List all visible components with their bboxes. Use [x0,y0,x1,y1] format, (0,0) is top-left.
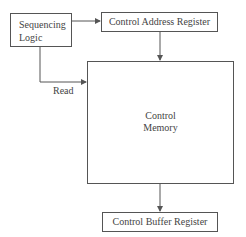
arrow-read [40,46,86,82]
sequencing-logic-label-2: Logic [19,32,42,44]
read-label: Read [53,85,74,97]
control-memory-label-1: Control [88,110,233,122]
control-address-register-box: Control Address Register [101,12,218,32]
sequencing-logic-label-1: Sequencing [19,19,66,31]
control-address-register-label: Control Address Register [102,16,217,28]
control-memory-box: Control Memory [87,61,234,184]
control-buffer-register-box: Control Buffer Register [102,212,218,232]
control-buffer-register-label: Control Buffer Register [103,216,217,228]
sequencing-logic-box: Sequencing Logic [10,13,72,47]
control-memory-label-2: Memory [88,122,233,134]
